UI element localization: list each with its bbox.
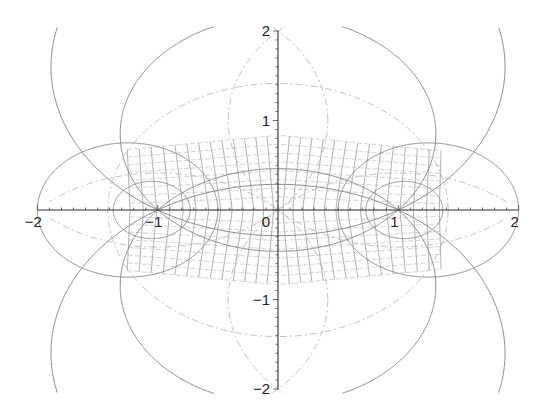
y-tick-label: 2: [262, 22, 270, 39]
dashdot-circle: [50, 27, 328, 247]
mesh-line-horizontal: [128, 254, 441, 267]
y-tick-label: −2: [253, 380, 270, 397]
x-tick-label: −1: [145, 213, 162, 230]
axes: [37, 31, 518, 389]
x-tick-label: −2: [25, 213, 42, 230]
mesh-line-horizontal: [128, 247, 440, 258]
x-tick-label: 0: [262, 213, 270, 230]
y-tick-label: −1: [253, 291, 270, 308]
x-tick-label: 2: [510, 213, 518, 230]
mesh-line-horizontal: [128, 162, 440, 173]
x-tick-label: 1: [390, 213, 398, 230]
dashdot-circle: [228, 173, 506, 393]
mesh-line-horizontal: [128, 153, 441, 166]
dashdot-circle: [50, 173, 328, 393]
y-tick-label: 1: [262, 112, 270, 129]
bipolar-coordinate-plot: −2−1012−2−112: [0, 0, 536, 418]
